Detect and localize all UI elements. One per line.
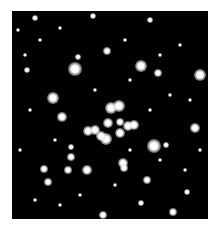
star xyxy=(143,176,151,184)
star xyxy=(32,15,38,21)
star xyxy=(78,193,82,197)
star xyxy=(75,54,81,60)
star xyxy=(103,47,111,55)
star xyxy=(28,108,32,112)
star xyxy=(103,118,113,128)
star xyxy=(135,60,147,72)
star xyxy=(158,53,162,57)
star xyxy=(82,165,92,175)
star xyxy=(188,98,192,102)
star xyxy=(115,128,125,138)
star xyxy=(53,138,57,142)
star xyxy=(183,168,187,172)
star xyxy=(169,208,177,216)
star xyxy=(90,13,96,19)
star xyxy=(68,62,82,76)
star xyxy=(128,148,132,152)
star xyxy=(113,100,125,112)
star xyxy=(154,69,162,77)
star-field-image xyxy=(12,11,208,219)
star xyxy=(163,142,169,148)
star xyxy=(168,93,172,97)
star xyxy=(44,178,52,186)
star xyxy=(184,189,190,195)
star xyxy=(138,200,144,206)
star xyxy=(33,198,37,202)
star xyxy=(148,108,152,112)
star xyxy=(47,92,59,104)
star xyxy=(120,164,128,172)
star xyxy=(158,158,162,162)
star xyxy=(194,69,206,81)
star xyxy=(198,148,202,152)
star xyxy=(58,203,62,207)
star xyxy=(24,67,30,73)
star xyxy=(178,43,182,47)
star xyxy=(123,38,127,42)
star xyxy=(18,148,22,152)
star xyxy=(99,211,107,219)
star xyxy=(68,144,74,150)
star xyxy=(16,28,20,32)
star xyxy=(147,139,161,153)
star xyxy=(190,123,200,133)
star xyxy=(67,153,75,161)
star xyxy=(129,120,139,130)
star xyxy=(40,165,48,173)
star xyxy=(113,183,117,187)
star xyxy=(147,17,153,23)
star xyxy=(64,166,72,174)
star xyxy=(57,112,67,122)
star xyxy=(128,78,132,82)
star xyxy=(96,131,106,141)
star xyxy=(38,38,42,42)
star xyxy=(58,26,62,30)
star xyxy=(93,88,97,92)
star xyxy=(23,53,27,57)
